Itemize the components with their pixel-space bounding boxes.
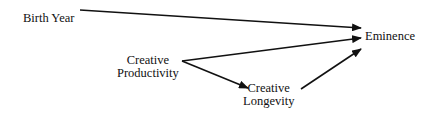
node-label: Birth Year xyxy=(23,11,74,25)
edge-productivity-longevity xyxy=(182,61,248,88)
node-label-line2: Longevity xyxy=(243,95,294,108)
node-label-line2: Productivity xyxy=(117,67,179,80)
node-creative-longevity: Creative Longevity xyxy=(243,82,294,108)
node-birth-year: Birth Year xyxy=(23,12,74,25)
edge-birthyear-eminence xyxy=(80,10,361,28)
edge-productivity-eminence xyxy=(182,38,361,61)
edge-longevity-eminence xyxy=(301,49,361,89)
node-creative-productivity: Creative Productivity xyxy=(117,54,179,80)
node-eminence: Eminence xyxy=(365,30,415,43)
node-label: Eminence xyxy=(365,29,415,43)
